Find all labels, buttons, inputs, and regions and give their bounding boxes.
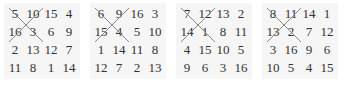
grid-cell: 8 [214,23,232,41]
grid-cell: 4 [300,59,318,77]
grid-cell: 7 [300,23,318,41]
grid-cell: 3 [146,5,164,23]
grid-cell: 14 [178,23,196,41]
grid-cell: 10 [24,5,42,23]
grid-cell: 4 [178,41,196,59]
grid-cell: 5 [282,59,300,77]
grid-cell: 12 [196,5,214,23]
grid-cell: 5 [6,5,24,23]
grid-cell: 7 [110,59,128,77]
grid-cell: 10 [146,23,164,41]
grid-cell: 9 [178,59,196,77]
grid-cell: 8 [146,41,164,59]
grid-cell: 1 [318,5,336,23]
grid-cell: 3 [264,41,282,59]
grid-cell: 4 [110,23,128,41]
grid-cell: 14 [110,41,128,59]
grid-cell: 13 [214,5,232,23]
grid-cell: 12 [318,23,336,41]
grid-cell: 3 [214,59,232,77]
grid-cell: 14 [300,5,318,23]
grid-cell: 6 [196,59,214,77]
number-grid: 71213214181141510596316 [178,5,250,77]
grid-cell: 16 [282,41,300,59]
grid-cell: 1 [196,23,214,41]
grid-cell: 13 [146,59,164,77]
number-grid: 69163154510114118127213 [92,5,164,77]
grid-cell: 13 [24,41,42,59]
grid-cell: 16 [232,59,250,77]
grid-cell: 1 [92,41,110,59]
grid-cell: 6 [42,23,60,41]
grid-cell: 14 [60,59,78,77]
grid-cell: 6 [92,5,110,23]
grid-cell: 1 [42,59,60,77]
grid-cell: 4 [60,5,78,23]
grid-cell: 15 [318,59,336,77]
grid-cell: 11 [6,59,24,77]
grid-cell: 6 [318,41,336,59]
magic-square-2: 69163154510114118127213 [90,3,166,79]
grid-cell: 2 [128,59,146,77]
grid-cell: 11 [282,5,300,23]
grid-cell: 2 [232,5,250,23]
grid-cell: 10 [264,59,282,77]
grid-cell: 16 [128,5,146,23]
grid-cell: 5 [232,41,250,59]
grid-cell: 5 [128,23,146,41]
grid-cell: 3 [24,23,42,41]
grid-cell: 10 [214,41,232,59]
grid-cell: 11 [232,23,250,41]
grid-cell: 2 [282,23,300,41]
magic-square-4: 81114113271231696105415 [262,3,338,79]
grid-cell: 15 [92,23,110,41]
grid-cell: 8 [24,59,42,77]
grid-cell: 9 [300,41,318,59]
grid-cell: 12 [92,59,110,77]
grid-cell: 13 [264,23,282,41]
number-grid: 81114113271231696105415 [264,5,336,77]
grid-cell: 9 [60,23,78,41]
grid-cell: 9 [110,5,128,23]
grid-cell: 7 [60,41,78,59]
grid-cell: 8 [264,5,282,23]
grid-cell: 15 [42,5,60,23]
number-grid: 51015416369213127118114 [6,5,78,77]
grid-cell: 2 [6,41,24,59]
grid-cell: 11 [128,41,146,59]
magic-square-3: 71213214181141510596316 [176,3,252,79]
grid-cell: 12 [42,41,60,59]
grid-cell: 15 [196,41,214,59]
magic-square-1: 51015416369213127118114 [4,3,80,79]
grid-cell: 16 [6,23,24,41]
grid-cell: 7 [178,5,196,23]
